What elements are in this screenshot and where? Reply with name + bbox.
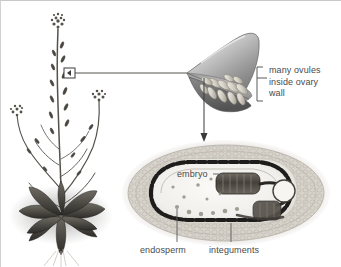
label-embryo: embryo [177,169,208,180]
label-many-ovules: many ovules [269,65,321,77]
label-wall: wall [269,88,321,100]
label-integuments: integuments [209,245,259,256]
botany-figure: many ovules inside ovary wall embryo end… [0,0,341,267]
ovule-label-block: many ovules inside ovary wall [269,65,321,100]
label-inside-ovary: inside ovary [269,77,321,89]
seed-cross-section-micrograph [1,1,341,267]
embryo-radicle-tip [273,180,295,202]
label-endosperm: endosperm [140,245,186,256]
